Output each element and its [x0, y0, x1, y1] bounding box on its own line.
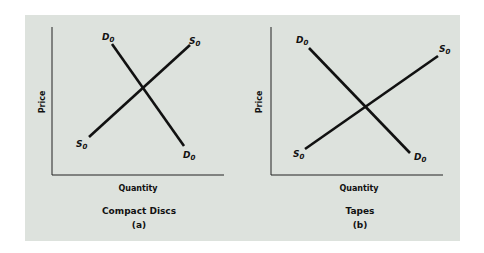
panel-b-demand-curve — [309, 48, 410, 153]
panel-a-title: Compact Discs — [79, 206, 199, 216]
panel-b-demand-label-bottom: D0 — [414, 152, 426, 164]
panel-a-supply-curve — [89, 45, 190, 137]
panel-b-supply-label-bottom: S0 — [293, 149, 304, 161]
panel-a-chart: D0 S0 S0 D0 Price Quantity — [38, 27, 224, 193]
panel-a-y-axis-label: Price — [38, 90, 47, 113]
panel-a-demand-label-bottom: D0 — [183, 150, 195, 162]
panel-a-supply-label-top: S0 — [189, 36, 200, 48]
panel-a-demand-label-top: D0 — [102, 32, 114, 44]
panel-b-letter: (b) — [300, 220, 420, 230]
panel-b-demand-label-top: D0 — [296, 35, 308, 47]
panel-a-x-axis-label: Quantity — [118, 184, 158, 193]
panel-b-chart: D0 S0 S0 D0 Price Quantity — [255, 27, 450, 193]
panel-a-supply-label-bottom: S0 — [76, 139, 87, 151]
panel-b-supply-label-top: S0 — [439, 44, 450, 56]
panel-b-x-axis-label: Quantity — [339, 184, 379, 193]
panel-b-y-axis-label: Price — [255, 90, 264, 113]
panel-a-letter: (a) — [79, 220, 199, 230]
panel-b-supply-curve — [305, 56, 438, 149]
panel-b-title: Tapes — [300, 206, 420, 216]
